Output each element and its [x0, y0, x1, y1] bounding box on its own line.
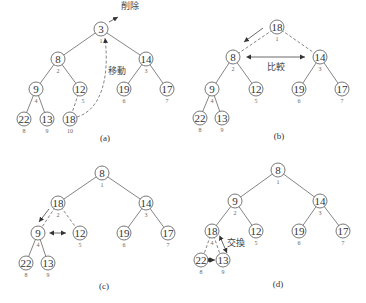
heap-node: 13	[40, 112, 54, 126]
svg-text:22: 22	[196, 254, 207, 266]
move-arrow	[77, 38, 106, 117]
svg-text:14: 14	[315, 51, 327, 63]
svg-text:19: 19	[119, 83, 131, 95]
heap-node: 8	[271, 163, 285, 177]
heap-node: 9	[205, 82, 219, 96]
svg-text:22: 22	[19, 113, 30, 125]
heap-node: 22	[19, 256, 33, 270]
svg-text:17: 17	[338, 225, 350, 237]
svg-text:13: 13	[217, 112, 229, 124]
node-index: 6	[298, 240, 301, 246]
node-index: 3	[319, 210, 322, 216]
sift-down-arrow	[39, 209, 49, 222]
node-index: 3	[145, 212, 148, 218]
svg-text:8: 8	[230, 51, 236, 63]
svg-text:9: 9	[35, 227, 41, 239]
svg-text:18: 18	[207, 225, 219, 237]
svg-text:8: 8	[275, 164, 281, 176]
heap-node: 17	[335, 82, 349, 96]
heap-node: 18	[270, 20, 284, 34]
heap-node: 8	[51, 52, 65, 66]
node-index: 9	[46, 128, 49, 134]
node-index: 10	[67, 128, 73, 134]
svg-text:9: 9	[209, 83, 215, 95]
heap-node: 13	[215, 111, 229, 125]
svg-text:14: 14	[315, 195, 327, 207]
heap-node: 19	[292, 82, 306, 96]
caption-b: (b)	[274, 131, 285, 141]
heap-node: 17	[161, 226, 175, 240]
heap-node: 17	[160, 82, 174, 96]
svg-text:12: 12	[75, 83, 86, 95]
heap-node: 18	[63, 112, 77, 126]
svg-text:13: 13	[42, 113, 54, 125]
heap-node: 12	[73, 82, 87, 96]
svg-text:8: 8	[99, 167, 105, 179]
heap-node: 13	[216, 253, 230, 267]
move-label: 移動	[108, 65, 126, 76]
node-index: 1	[276, 36, 279, 42]
heap-node: 18	[205, 224, 219, 238]
svg-text:9: 9	[33, 83, 39, 95]
caption-d: (d)	[273, 279, 284, 289]
swap-label: 交換	[227, 237, 245, 248]
svg-text:18: 18	[53, 197, 65, 209]
node-index: 8	[199, 127, 202, 133]
svg-text:3: 3	[98, 23, 104, 35]
heap-node: 17	[336, 224, 350, 238]
node-index: 4	[211, 98, 214, 104]
node-index: 8	[23, 128, 26, 134]
svg-text:17: 17	[337, 83, 349, 95]
svg-text:19: 19	[294, 225, 306, 237]
svg-text:19: 19	[294, 83, 306, 95]
node-index: 2	[57, 212, 60, 218]
svg-text:8: 8	[55, 53, 61, 65]
node-index: 4	[35, 98, 38, 104]
node-index: 2	[232, 66, 235, 72]
heap-delete-diagram: 削除 移動 3 1 8 2 14 3 9 4 12 5 19 6 17 7 22…	[0, 0, 366, 303]
panel-d: 交換 8 1 9 2 14 3 18 4 12 5 19 6 17 7 22 8…	[194, 163, 350, 289]
svg-text:19: 19	[119, 227, 131, 239]
svg-text:12: 12	[75, 227, 86, 239]
svg-text:12: 12	[251, 225, 262, 237]
heap-node: 18	[51, 196, 65, 210]
node-index: 1	[101, 182, 104, 188]
heap-node: 9	[228, 194, 242, 208]
node-index: 1	[100, 38, 103, 44]
svg-text:12: 12	[251, 83, 262, 95]
heap-node: 14	[313, 194, 327, 208]
heap-node: 19	[117, 82, 131, 96]
heap-node: 14	[139, 52, 153, 66]
panel-c: 8 1 18 2 14 3 9 4 12 5 19 6 17 7 22 8 13…	[19, 166, 175, 291]
svg-text:14: 14	[141, 197, 153, 209]
node-index: 2	[234, 210, 237, 216]
compare-label: 比較	[267, 61, 285, 72]
svg-text:14: 14	[141, 53, 153, 65]
node-index: 8	[25, 272, 28, 278]
node-index: 9	[222, 269, 225, 275]
svg-text:22: 22	[21, 257, 32, 269]
svg-text:22: 22	[195, 112, 206, 124]
node-index: 7	[341, 98, 344, 104]
heap-node: 14	[139, 196, 153, 210]
node-index: 2	[57, 68, 60, 74]
node-index: 7	[342, 240, 345, 246]
heap-node: 9	[29, 82, 43, 96]
delete-arrow	[109, 17, 118, 22]
svg-text:18: 18	[272, 21, 284, 33]
node-index: 6	[123, 98, 126, 104]
heap-node: 3	[94, 22, 108, 36]
heap-node: 22	[17, 112, 31, 126]
svg-text:9: 9	[232, 195, 238, 207]
node-index: 3	[145, 68, 148, 74]
caption-a: (a)	[100, 133, 110, 143]
heap-node: 12	[249, 224, 263, 238]
node-index: 5	[255, 98, 258, 104]
heap-node: 8	[95, 166, 109, 180]
heap-node: 22	[194, 253, 208, 267]
svg-text:13: 13	[43, 257, 55, 269]
node-index: 5	[82, 98, 85, 104]
panel-b: 比較 18 1 8 2 14 3 9 4 12 5 19 6 17 7 22 8…	[193, 20, 349, 141]
heap-node: 14	[313, 50, 327, 64]
node-index: 9	[47, 272, 50, 278]
